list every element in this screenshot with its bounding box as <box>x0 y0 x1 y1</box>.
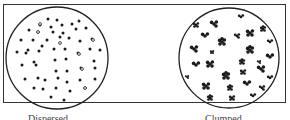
clump <box>185 75 189 79</box>
dot <box>42 88 45 91</box>
dot <box>89 48 92 51</box>
hollow-dot <box>81 68 84 71</box>
dot <box>71 23 74 26</box>
clump <box>267 39 273 43</box>
dispersion-diagram <box>0 0 290 120</box>
dot <box>99 49 102 52</box>
clump <box>243 80 251 86</box>
dot <box>85 27 88 30</box>
clump <box>246 29 254 37</box>
hollow-dot <box>84 87 87 90</box>
dot <box>32 39 35 42</box>
dot <box>33 87 36 90</box>
clump <box>222 71 230 80</box>
dot <box>55 70 58 73</box>
hollow-dot <box>59 42 62 45</box>
dot <box>50 96 53 99</box>
dot <box>93 60 96 63</box>
dot <box>56 19 59 22</box>
dot <box>78 20 81 23</box>
dot <box>37 77 40 80</box>
dot <box>20 39 23 42</box>
clump <box>246 45 254 54</box>
dot <box>59 36 62 39</box>
clump <box>267 75 273 79</box>
clump <box>192 61 200 67</box>
dot <box>16 51 19 54</box>
clump <box>206 60 214 68</box>
dot <box>57 77 60 80</box>
dot <box>66 70 69 73</box>
clump <box>240 69 246 75</box>
dot <box>47 18 50 21</box>
dot <box>25 52 28 55</box>
dot <box>79 40 82 43</box>
dot <box>35 64 38 67</box>
clump <box>234 33 240 39</box>
dot <box>41 45 44 48</box>
dot <box>21 64 24 67</box>
dot <box>54 59 57 62</box>
clump <box>218 37 226 46</box>
clump <box>250 93 256 97</box>
dot <box>52 31 55 34</box>
dot <box>62 32 65 35</box>
dot <box>65 58 68 61</box>
dot <box>24 78 27 81</box>
clump <box>202 82 210 90</box>
dot <box>66 81 69 84</box>
hollow-dot <box>92 39 95 42</box>
dot <box>79 79 82 82</box>
clump <box>190 45 198 53</box>
dot <box>75 28 78 31</box>
dot <box>61 24 64 27</box>
clump <box>229 95 235 101</box>
dot <box>63 99 66 102</box>
dot <box>28 29 31 32</box>
hollow-dot <box>78 53 81 56</box>
clump <box>239 58 245 65</box>
clump <box>201 32 209 38</box>
left-circle <box>6 7 108 109</box>
clump <box>210 50 214 54</box>
dot <box>53 48 56 51</box>
dot <box>94 67 97 70</box>
dot <box>69 90 72 93</box>
dot <box>33 61 36 64</box>
hollow-dot <box>37 31 40 34</box>
clump <box>227 84 233 91</box>
clump <box>207 94 213 101</box>
dot <box>68 37 71 40</box>
dot <box>38 50 41 53</box>
dot <box>27 49 30 52</box>
dot <box>55 87 58 90</box>
left-caption: Dispersed <box>28 113 68 120</box>
clump <box>266 53 274 59</box>
dot <box>50 26 53 29</box>
dispersed-panel <box>6 7 108 109</box>
dot <box>94 78 97 81</box>
hollow-dot <box>39 23 42 26</box>
dot <box>46 39 49 42</box>
clump <box>193 22 199 28</box>
clump <box>257 65 265 73</box>
clump <box>210 20 218 28</box>
clumped-panel <box>179 8 279 108</box>
dot <box>44 79 47 82</box>
clump <box>257 60 261 64</box>
dot <box>64 48 67 51</box>
right-caption: Clumped <box>205 113 242 120</box>
clump <box>260 25 266 32</box>
clump <box>259 85 265 91</box>
clump <box>238 14 244 18</box>
